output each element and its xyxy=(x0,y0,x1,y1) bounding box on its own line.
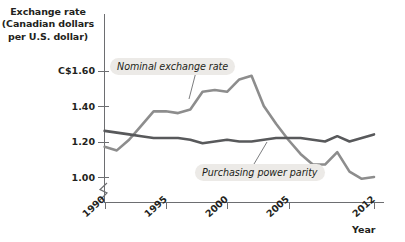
leader-line-ppp xyxy=(254,142,267,164)
series-label-nominal-exchange-rate: Nominal exchange rate xyxy=(110,58,235,75)
exchange-rate-chart: Exchange rate (Canadian dollars per U.S.… xyxy=(0,0,405,242)
plot-area xyxy=(0,0,405,242)
series-label-purchasing-power-parity: Purchasing power parity xyxy=(195,164,325,181)
leader-line-nominal xyxy=(189,72,196,99)
series-line-purchasing-power-parity xyxy=(105,131,374,143)
